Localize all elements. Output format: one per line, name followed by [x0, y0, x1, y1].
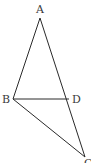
diagram-canvas: A B D C [0, 0, 91, 163]
segment-ac [40, 18, 85, 157]
triangle-diagram: A B D C [0, 0, 91, 163]
segment-ab [13, 18, 40, 99]
vertex-label-c: C [84, 157, 91, 163]
vertex-label-b: B [2, 93, 10, 106]
point-label-d: D [72, 93, 81, 106]
segment-bc [13, 99, 85, 157]
vertex-label-a: A [35, 3, 45, 16]
